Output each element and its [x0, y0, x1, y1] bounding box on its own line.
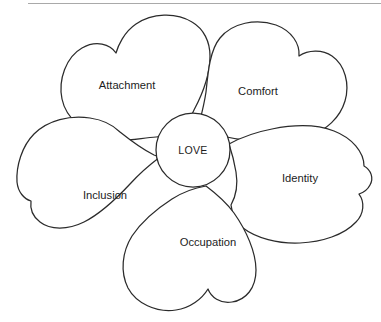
petal-shape-identity[interactable] — [229, 126, 372, 243]
petal-shape-comfort[interactable] — [198, 22, 347, 142]
petal-label-identity: Identity — [282, 172, 318, 184]
petal-diagram-svg: Attachment Comfort Identity Occupation I… — [0, 0, 381, 322]
petal-label-occupation: Occupation — [180, 236, 237, 248]
petal-label-attachment: Attachment — [99, 79, 156, 91]
petal-label-comfort: Comfort — [238, 85, 279, 97]
core-label-love: LOVE — [178, 144, 207, 156]
diagram-canvas: Attachment Comfort Identity Occupation I… — [0, 0, 381, 322]
petal-label-inclusion: Inclusion — [83, 189, 127, 201]
